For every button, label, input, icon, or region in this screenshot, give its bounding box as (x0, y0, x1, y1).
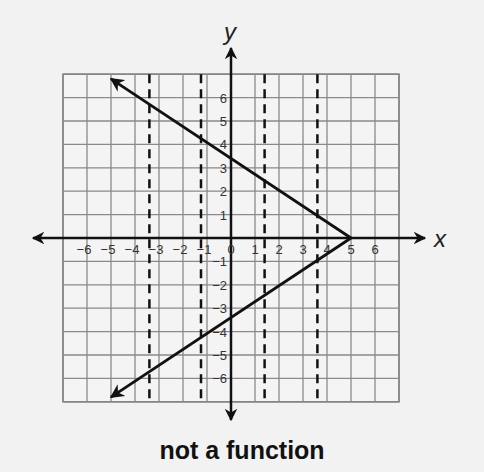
x-tick-label: −5 (101, 242, 116, 257)
y-tick-label: 2 (220, 184, 227, 199)
x-tick-label: 0 (227, 242, 234, 257)
y-tick-label: −4 (212, 325, 227, 340)
x-tick-label: −1 (197, 242, 212, 257)
y-tick-label: 1 (220, 208, 227, 223)
x-tick-label: 5 (347, 242, 354, 257)
caption: not a function (0, 436, 484, 465)
x-tick-label: 6 (371, 242, 378, 257)
x-tick-label: −4 (125, 242, 140, 257)
y-tick-label: −2 (212, 278, 227, 293)
y-tick-label: −1 (212, 254, 227, 269)
y-tick-label: −3 (212, 301, 227, 316)
x-tick-label: 3 (299, 242, 306, 257)
x-tick-label: −2 (173, 242, 188, 257)
x-tick-label: −3 (149, 242, 164, 257)
coordinate-graph: xy−6−5−4−3−2−10123456−6−5−4−3−2−1123456 (0, 0, 484, 472)
y-tick-label: 5 (220, 114, 227, 129)
x-tick-label: 1 (251, 242, 258, 257)
y-axis-label: y (222, 18, 238, 45)
x-tick-label: −6 (77, 242, 92, 257)
y-tick-label: −5 (212, 348, 227, 363)
y-tick-label: 3 (220, 161, 227, 176)
y-tick-label: −6 (212, 371, 227, 386)
x-tick-label: 2 (275, 242, 282, 257)
x-axis-label: x (433, 225, 447, 252)
y-tick-label: 6 (220, 91, 227, 106)
